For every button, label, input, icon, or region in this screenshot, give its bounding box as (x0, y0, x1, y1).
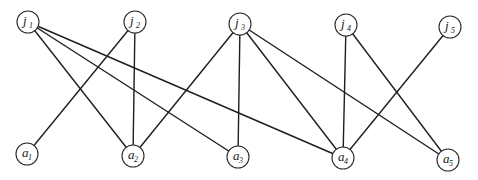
edge-j2-a2 (133, 22, 135, 156)
node-subscript: 4 (347, 24, 351, 33)
edge-j3-a3 (238, 24, 240, 157)
node-subscript: 5 (451, 26, 455, 35)
node-j2: j2 (124, 11, 146, 33)
edges-layer (27, 22, 450, 160)
node-subscript: 5 (449, 159, 453, 168)
node-subscript: 2 (136, 21, 140, 30)
node-circle (229, 13, 251, 35)
node-a5: a5 (437, 149, 459, 171)
node-circle (335, 14, 357, 36)
node-circle (439, 16, 461, 38)
node-subscript: 1 (29, 21, 33, 30)
node-subscript: 3 (240, 23, 245, 32)
node-a2: a2 (122, 145, 144, 167)
node-a3: a3 (227, 146, 249, 168)
edge-j3-a4 (240, 24, 343, 158)
node-j5: j5 (439, 16, 461, 38)
node-subscript: 4 (344, 157, 348, 166)
edge-j3-a2 (133, 24, 240, 156)
edge-j1-a4 (28, 22, 343, 158)
node-a1: a1 (16, 143, 38, 165)
node-j1: j1 (17, 11, 39, 33)
node-j4: j4 (335, 14, 357, 36)
edge-j5-a4 (343, 27, 450, 158)
node-a4: a4 (332, 147, 354, 169)
node-subscript: 1 (28, 153, 32, 162)
bipartite-graph: j1j2j3j4j5a1a2a3a4a5 (0, 0, 478, 180)
node-subscript: 2 (134, 155, 138, 164)
node-circle (17, 11, 39, 33)
node-circle (124, 11, 146, 33)
node-j3: j3 (229, 13, 251, 35)
node-subscript: 3 (238, 156, 243, 165)
